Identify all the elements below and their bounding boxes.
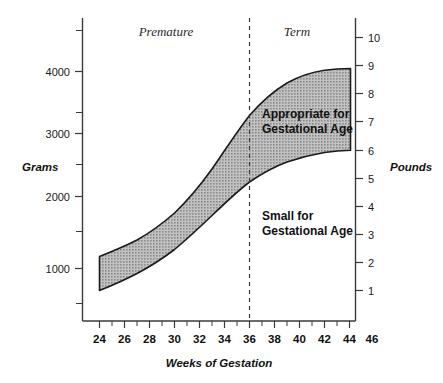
y-right-label-8: 8: [368, 88, 374, 100]
chart-canvas: 4000 3000 2000 1000 Grams 10 9 8 7 6 5: [0, 0, 443, 383]
appropriate-label-line1: Appropriate for: [262, 107, 350, 121]
y-right-label-10: 10: [368, 32, 380, 44]
y-right-label-7: 7: [368, 116, 374, 128]
x-label-26: 26: [118, 333, 131, 345]
x-label-38: 38: [268, 333, 281, 345]
growth-band-area: [100, 69, 351, 291]
region-label-premature: Premature: [138, 24, 194, 39]
small-label-line2: Gestational Age: [262, 224, 353, 238]
x-label-30: 30: [168, 333, 181, 345]
y-axis-left-title: Grams: [22, 161, 58, 173]
x-axis-labels: 24 26 28 30 32 34 36 38 40 42 44 46: [93, 333, 378, 345]
small-label-line1: Small for: [262, 209, 314, 223]
y-right-label-9: 9: [368, 60, 374, 72]
y-right-label-1: 1: [368, 285, 374, 297]
y-left-label-1000: 1000: [46, 263, 70, 275]
x-label-32: 32: [193, 333, 206, 345]
growth-chart: 4000 3000 2000 1000 Grams 10 9 8 7 6 5: [0, 0, 443, 383]
y-right-label-6: 6: [368, 145, 374, 157]
x-label-40: 40: [293, 333, 306, 345]
y-left-label-4000: 4000: [46, 66, 70, 78]
x-axis-title: Weeks of Gestation: [166, 357, 273, 369]
y-right-label-2: 2: [368, 257, 374, 269]
y-axis-right-labels: 10 9 8 7 6 5 4 3 2 1: [368, 32, 380, 297]
y-left-label-2000: 2000: [46, 191, 70, 203]
y-right-label-3: 3: [368, 229, 374, 241]
appropriate-label-line2: Gestational Age: [262, 122, 353, 136]
x-label-28: 28: [143, 333, 156, 345]
x-label-34: 34: [218, 333, 231, 345]
x-axis-ticks: [100, 321, 350, 328]
annotation-small-for-gestational-age: Small for Gestational Age: [262, 209, 353, 238]
y-right-label-4: 4: [368, 201, 374, 213]
x-label-36: 36: [243, 333, 256, 345]
region-label-term: Term: [284, 24, 310, 39]
y-left-label-3000: 3000: [46, 128, 70, 140]
x-label-46: 46: [366, 333, 379, 345]
annotation-appropriate-for-gestational-age: Appropriate for Gestational Age: [262, 107, 353, 136]
x-label-24: 24: [93, 333, 106, 345]
y-axis-left-ticks: [75, 31, 83, 304]
x-label-44: 44: [343, 333, 356, 345]
y-axis-right-ticks: [356, 38, 364, 291]
y-right-label-5: 5: [368, 173, 374, 185]
y-axis-right-title: Pounds: [390, 161, 432, 173]
x-label-42: 42: [318, 333, 331, 345]
